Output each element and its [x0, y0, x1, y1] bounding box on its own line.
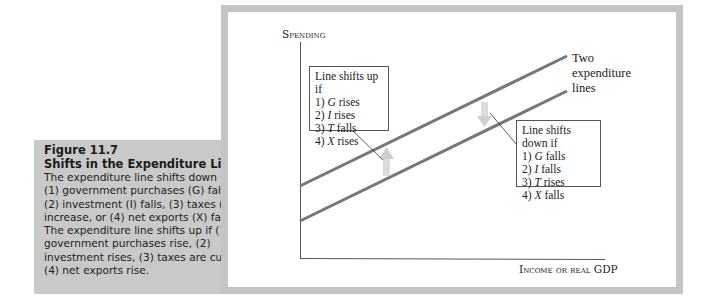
shift-down-arrow-icon	[477, 102, 492, 127]
item-var: I	[327, 109, 331, 121]
item-text: rises	[544, 176, 565, 188]
item-num: 1)	[522, 150, 532, 162]
item-text: rises	[337, 135, 358, 147]
x-axis-label-text: Income or real GDP	[519, 263, 618, 275]
shift-up-box: Line shifts up if 1) G rises 2) I rises …	[309, 66, 389, 131]
line-label-2: expenditure	[572, 66, 631, 81]
x-axis	[300, 259, 605, 260]
item-num: 2)	[522, 163, 532, 175]
item-var: T	[327, 122, 333, 134]
shift-up-item: 4) X rises	[315, 135, 382, 148]
item-num: 3)	[522, 176, 532, 188]
item-text: falls	[546, 150, 566, 162]
shift-up-title: Line shifts up if	[315, 70, 382, 96]
item-num: 4)	[315, 135, 325, 147]
item-var: X	[534, 189, 541, 201]
shift-down-box: Line shifts down if 1) G falls 2) I fall…	[516, 120, 601, 187]
item-text: falls	[544, 189, 564, 201]
shift-down-item: 2) I falls	[522, 163, 594, 176]
line-label-3: lines	[572, 81, 631, 96]
shift-down-title: Line shifts down if	[522, 124, 594, 150]
item-num: 1)	[315, 96, 325, 108]
item-var: G	[534, 150, 542, 162]
expenditure-lines-label: Two expenditure lines	[572, 51, 631, 96]
item-text: rises	[339, 96, 360, 108]
y-axis-label-text: Spending	[282, 28, 325, 40]
item-num: 4)	[522, 189, 532, 201]
shift-down-item: 3) T rises	[522, 176, 594, 189]
shift-down-item: 1) G falls	[522, 150, 594, 163]
item-var: G	[327, 96, 335, 108]
item-num: 2)	[315, 109, 325, 121]
item-text: falls	[337, 122, 357, 134]
shift-up-item: 1) G rises	[315, 96, 382, 109]
item-num: 3)	[315, 122, 325, 134]
item-text: falls	[541, 163, 561, 175]
y-axis-label: Spending	[282, 28, 325, 40]
shift-up-arrow-icon	[379, 147, 394, 176]
item-var: X	[327, 135, 334, 147]
line-label-1: Two	[572, 51, 631, 66]
shift-up-item: 3) T falls	[315, 122, 382, 135]
x-axis-label: Income or real GDP	[519, 263, 618, 275]
shift-down-item: 4) X falls	[522, 189, 594, 202]
item-var: I	[534, 163, 538, 175]
item-text: rises	[334, 109, 355, 121]
shift-up-item: 2) I rises	[315, 109, 382, 122]
expenditure-diagram	[0, 0, 716, 306]
item-var: T	[534, 176, 540, 188]
